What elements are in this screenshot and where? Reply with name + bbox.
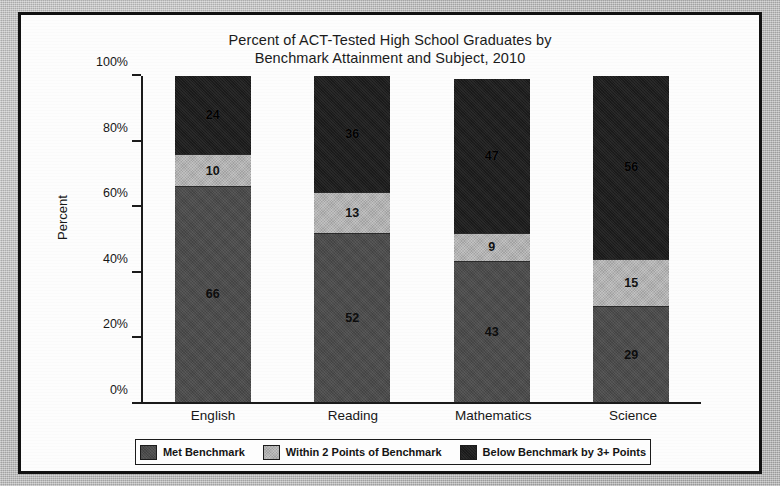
chart-title-line-1: Percent of ACT-Tested High School Gradua… (21, 31, 759, 49)
bar-value-label: 10 (206, 164, 220, 178)
bar-value-label: 66 (206, 287, 220, 301)
y-axis-tick (132, 402, 141, 404)
bar-value-label: 47 (485, 149, 499, 163)
y-axis-tick (132, 74, 141, 76)
legend-item[interactable]: Below Benchmark by 3+ Points (460, 445, 647, 460)
legend-item[interactable]: Met Benchmark (140, 445, 245, 460)
bar-value-label: 36 (345, 127, 359, 141)
bar-value-label: 9 (488, 240, 495, 254)
bar-group-reading[interactable]: 521336 (314, 76, 390, 402)
legend-label: Met Benchmark (163, 446, 245, 458)
x-axis-line (141, 402, 701, 404)
x-axis-label-mathematics: Mathematics (455, 408, 531, 423)
x-axis-label-reading: Reading (315, 408, 391, 423)
bar-value-label: 43 (485, 325, 499, 339)
plot-area: 0%20%40%60%80%100% 661024521336439472915… (141, 76, 701, 404)
legend-item[interactable]: Within 2 Points of Benchmark (263, 445, 442, 460)
bar-value-label: 56 (624, 160, 638, 174)
bar-value-label: 24 (206, 108, 220, 122)
bar-value-label: 15 (624, 276, 638, 290)
chart-title-line-2: Benchmark Attainment and Subject, 2010 (21, 49, 759, 67)
bar-value-label: 52 (345, 311, 359, 325)
bar-value-label: 29 (624, 348, 638, 362)
bar-segment[interactable]: 24 (175, 76, 251, 154)
bar-segment[interactable]: 43 (454, 262, 530, 402)
bar-group-mathematics[interactable]: 43947 (454, 76, 530, 402)
legend-label: Below Benchmark by 3+ Points (483, 446, 647, 458)
bar-segment[interactable]: 29 (593, 307, 669, 402)
bar-segment[interactable]: 52 (314, 234, 390, 402)
bar-segment[interactable]: 15 (593, 259, 669, 308)
y-axis-title: Percent (55, 195, 70, 240)
y-axis-tick (132, 205, 141, 207)
y-axis-tick (132, 140, 141, 142)
chart-legend: Met BenchmarkWithin 2 Points of Benchmar… (135, 439, 651, 465)
y-axis-tick-label: 80% (103, 121, 128, 135)
bar-group-science[interactable]: 291556 (593, 76, 669, 402)
y-axis-tick-label: 40% (103, 252, 128, 266)
bar-segment[interactable]: 36 (314, 76, 390, 192)
y-axis-tick-label: 60% (103, 186, 128, 200)
chart-frame: Percent of ACT-Tested High School Gradua… (18, 12, 762, 474)
bar-segment[interactable]: 9 (454, 233, 530, 262)
y-axis-tick (132, 271, 141, 273)
x-axis-label-science: Science (595, 408, 671, 423)
chart-title: Percent of ACT-Tested High School Gradua… (21, 31, 759, 67)
bar-segment[interactable]: 66 (175, 187, 251, 402)
bar-segment[interactable]: 56 (593, 76, 669, 259)
x-axis-category-labels: EnglishReadingMathematicsScience (143, 408, 703, 423)
legend-swatch (460, 445, 477, 460)
legend-label: Within 2 Points of Benchmark (286, 446, 442, 458)
bar-value-label: 13 (345, 206, 359, 220)
x-axis-label-english: English (175, 408, 251, 423)
bar-segment[interactable]: 47 (454, 79, 530, 232)
y-axis-tick-label: 20% (103, 317, 128, 331)
bar-group-english[interactable]: 661024 (175, 76, 251, 402)
y-axis-tick-label: 0% (110, 383, 128, 397)
chart-panel: Percent of ACT-Tested High School Gradua… (21, 15, 759, 471)
y-axis-tick-label: 100% (96, 55, 128, 69)
bar-segment[interactable]: 10 (175, 154, 251, 187)
legend-swatch (263, 445, 280, 460)
legend-swatch (140, 445, 157, 460)
bar-segment[interactable]: 13 (314, 192, 390, 234)
y-axis-tick (132, 336, 141, 338)
bar-series-container: 66102452133643947291556 (143, 76, 701, 402)
